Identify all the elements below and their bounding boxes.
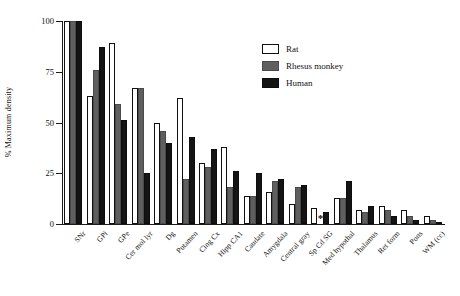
y-tick-mark — [56, 21, 63, 22]
bar-group — [132, 21, 153, 224]
bar-group — [87, 21, 108, 224]
bar — [211, 149, 217, 224]
legend-item: Rhesus monkey — [262, 61, 343, 71]
bar — [323, 212, 329, 224]
y-tick-mark — [56, 72, 63, 73]
bar — [233, 171, 239, 224]
legend-item: Rat — [262, 44, 343, 54]
bar — [256, 173, 262, 224]
bar-group — [109, 21, 130, 224]
y-tick-label: 0 — [50, 219, 54, 229]
bar-group — [356, 21, 377, 224]
bar — [346, 181, 352, 224]
bar — [121, 120, 127, 224]
legend: RatRhesus monkeyHuman — [262, 44, 343, 88]
bar-group — [154, 21, 175, 224]
bar-group — [64, 21, 85, 224]
bar — [413, 220, 419, 224]
bar-group — [199, 21, 220, 224]
plot-area: * — [63, 21, 445, 224]
bar — [278, 179, 284, 224]
bar-group — [424, 21, 445, 224]
bar — [391, 216, 397, 224]
x-tick-label: SNr — [72, 229, 87, 244]
x-tick-label: Thalamus — [352, 229, 380, 258]
x-tick-label: Dg — [164, 229, 177, 242]
y-tick-label: 25 — [46, 168, 55, 178]
legend-label: Human — [286, 78, 313, 88]
x-tick-label: WM (cc) — [421, 229, 447, 256]
x-tick-label: GPe — [116, 229, 132, 245]
bar — [76, 21, 82, 224]
y-tick-label: 100 — [41, 16, 54, 26]
y-axis-title: % Maximum density — [4, 87, 13, 158]
x-tick-label: GPi — [95, 229, 110, 244]
bar — [189, 137, 195, 224]
bar — [436, 222, 442, 224]
gray-square-icon — [262, 61, 279, 71]
bar-group — [177, 21, 198, 224]
y-tick-mark — [56, 123, 63, 124]
y-tick-label: 50 — [46, 118, 55, 128]
x-tick-label: Putamen — [174, 229, 199, 255]
y-tick-mark — [56, 173, 63, 174]
y-tick-mark — [56, 224, 63, 225]
bar-group — [401, 21, 422, 224]
bar — [99, 47, 105, 224]
bar — [301, 185, 307, 224]
x-tick-label: Pons — [407, 229, 424, 246]
bar — [166, 143, 172, 224]
x-tick-label: Ret form — [376, 229, 402, 256]
x-axis-line — [62, 224, 445, 225]
bar — [368, 206, 374, 224]
legend-item: Human — [262, 78, 343, 88]
bar-chart: % Maximum density 0255075100 * SNrGPiGPe… — [0, 0, 460, 296]
white-square-icon — [262, 44, 279, 54]
legend-label: Rat — [286, 44, 299, 54]
black-square-icon — [262, 78, 279, 88]
legend-label: Rhesus monkey — [286, 61, 343, 71]
bar-group — [221, 21, 242, 224]
bar — [144, 173, 150, 224]
y-tick-label: 75 — [46, 67, 55, 77]
bar-group — [379, 21, 400, 224]
